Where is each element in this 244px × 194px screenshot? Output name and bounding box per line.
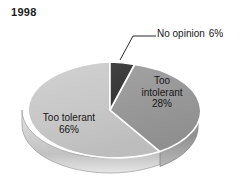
slice-label-too-tolerant: Too tolerant 66% [29,112,109,135]
too-tolerant-name: Too tolerant [29,112,109,124]
no-opinion-value: 6% [205,28,223,39]
too-intolerant-name-line2: intolerant [128,87,196,99]
slice-label-too-intolerant: Too intolerant 28% [128,75,196,110]
pie-chart-figure: 1998 [0,0,244,194]
no-opinion-name: No opinion [157,28,205,39]
too-intolerant-value: 28% [128,98,196,110]
too-intolerant-name-line1: Too [128,75,196,87]
no-opinion-leader-line [120,36,156,60]
slice-label-no-opinion: No opinion6% [157,28,223,40]
too-tolerant-value: 66% [29,124,109,136]
